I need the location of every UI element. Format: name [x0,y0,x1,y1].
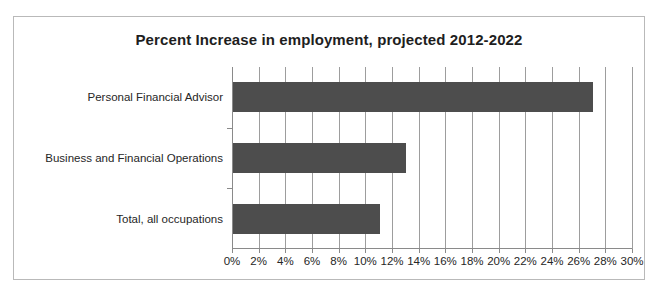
x-tick-8% [339,249,340,253]
x-tick-14% [419,249,420,253]
x-tick-label: 22% [514,255,537,267]
x-tick-18% [472,249,473,253]
x-tick-0% [232,249,233,253]
x-tick-22% [525,249,526,253]
bar [233,143,406,173]
x-tick-16% [445,249,446,253]
x-tick-4% [285,249,286,253]
x-tick-label: 12% [380,255,403,267]
x-tick-24% [552,249,553,253]
bar-group: Business and Financial Operations [232,128,632,189]
category-label: Personal Financial Advisor [87,91,223,103]
x-tick-26% [579,249,580,253]
x-axis-tick-labels: 0%2%4%6%8%10%12%14%16%18%20%22%24%26%28%… [232,255,632,271]
x-tick-28% [605,249,606,253]
x-tick-label: 2% [250,255,267,267]
category-label: Total, all occupations [116,213,223,225]
x-tick-label: 24% [540,255,563,267]
x-tick-label: 16% [434,255,457,267]
x-tick-label: 4% [277,255,294,267]
x-tick-label: 10% [354,255,377,267]
category-label: Business and Financial Operations [45,152,223,164]
chart-frame: Percent Increase in employment, projecte… [13,16,645,280]
x-tick-label: 20% [487,255,510,267]
bar-group: Total, all occupations [232,188,632,249]
x-tick-label: 26% [567,255,590,267]
x-tick-label: 14% [407,255,430,267]
y-tick [227,128,232,129]
bar [233,204,380,234]
x-tick-20% [499,249,500,253]
x-tick-label: 6% [304,255,321,267]
x-tick-12% [392,249,393,253]
chart-title: Percent Increase in employment, projecte… [14,31,644,48]
y-tick [227,188,232,189]
bar [233,82,593,112]
plot-area: Personal Financial AdvisorBusiness and F… [232,67,632,249]
x-tick-label: 18% [460,255,483,267]
bar-group: Personal Financial Advisor [232,67,632,128]
x-tick-label: 30% [620,255,643,267]
x-tick-6% [312,249,313,253]
x-tick-2% [259,249,260,253]
x-tick-30% [632,249,633,253]
gridline-30% [632,67,633,249]
x-tick-label: 8% [330,255,347,267]
x-tick-label: 28% [594,255,617,267]
x-tick-label: 0% [224,255,241,267]
x-tick-10% [365,249,366,253]
